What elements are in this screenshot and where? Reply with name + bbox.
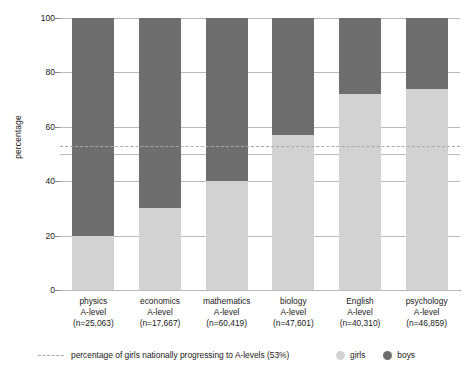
bar-segment-boys[interactable] [406,18,448,89]
bar-group[interactable] [206,18,248,290]
bar-segment-girls[interactable] [272,135,314,290]
bar-segment-boys[interactable] [139,18,181,208]
bar-group[interactable] [272,18,314,290]
plot-area [60,18,460,290]
bar-segment-boys[interactable] [272,18,314,135]
category-label-line-0: psychology [384,296,470,307]
legend-item-girls[interactable]: girls [336,350,365,360]
category-label-line-1: A-level [384,307,470,318]
bar-segment-boys[interactable] [206,18,248,181]
gridline-20 [60,236,460,237]
y-axis-ticks: 020406080100 [0,18,55,290]
legend-item-boys[interactable]: boys [383,350,415,360]
gridline-100 [60,18,460,19]
y-tick-label-100: 100 [25,13,55,23]
reference-line [60,146,460,147]
category-label-line-2: (n=46,859) [384,318,470,329]
gridline-60 [60,127,460,128]
bar-segment-girls[interactable] [339,94,381,290]
bar-segment-girls[interactable] [406,89,448,290]
y-tick-label-60: 60 [25,122,55,132]
gridline-40 [60,181,460,182]
bar-segment-girls[interactable] [72,236,114,290]
gridline-50 [60,154,460,155]
bar-segment-girls[interactable] [206,181,248,290]
reference-line-legend: percentage of girls nationally progressi… [38,350,289,360]
y-tick-label-20: 20 [25,231,55,241]
bar-group[interactable] [406,18,448,290]
gridline-80 [60,72,460,73]
bar-segment-boys[interactable] [339,18,381,94]
reference-line-legend-label: percentage of girls nationally progressi… [71,350,289,360]
legend-label: girls [350,350,365,360]
bar-segment-girls[interactable] [139,208,181,290]
legend-swatch-circle-icon [336,351,345,360]
legend-label: boys [397,350,415,360]
category-label: psychologyA-level(n=46,859) [384,296,470,330]
bar-group[interactable] [339,18,381,290]
bar-group[interactable] [139,18,181,290]
stacked-bar-chart: percentage 020406080100 physicsA-level(n… [0,0,475,374]
series-legend: girlsboys [336,350,427,360]
bar-group[interactable] [72,18,114,290]
bar-segment-boys[interactable] [72,18,114,236]
legend-swatch-circle-icon [383,351,392,360]
gridline-0 [60,290,460,291]
y-tick-label-0: 0 [25,285,55,295]
y-tick-label-40: 40 [25,176,55,186]
dashed-line-icon [38,355,64,356]
x-axis-category-labels: physicsA-level(n=25,063)economicsA-level… [60,296,460,338]
y-tick-label-80: 80 [25,67,55,77]
